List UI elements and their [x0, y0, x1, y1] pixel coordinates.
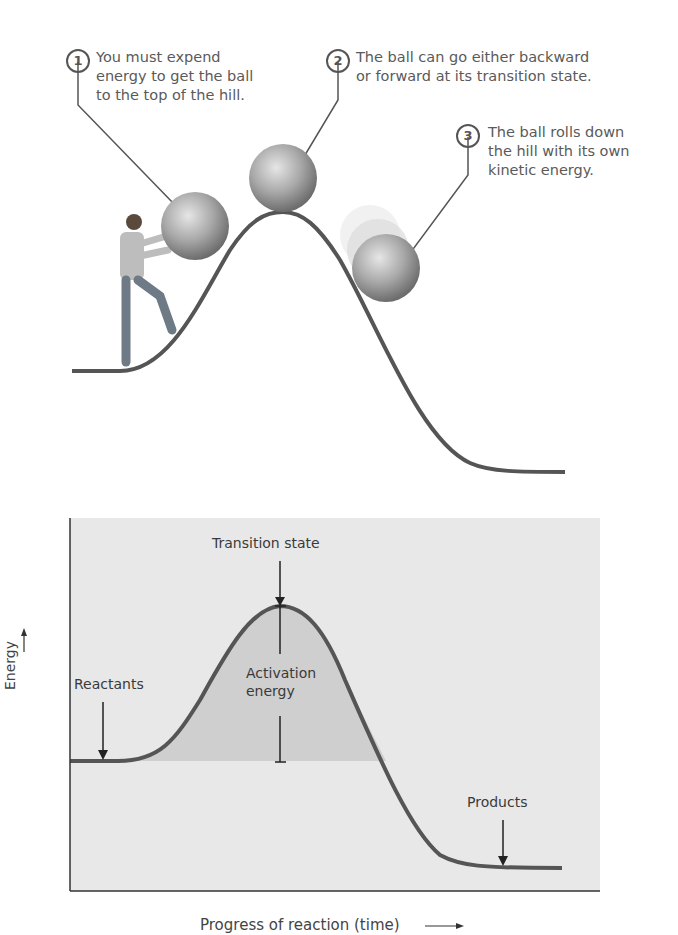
- callout-3-line2: the hill with its own: [488, 142, 629, 161]
- callout-3-line3: kinetic energy.: [488, 161, 629, 180]
- y-axis-label: Energy: [2, 641, 18, 690]
- callout-2-line1: The ball can go either backward: [356, 48, 592, 67]
- callout-2-line2: or forward at its transition state.: [356, 67, 592, 86]
- callout-1-line2: energy to get the ball: [96, 67, 253, 86]
- callout-1-text: You must expend energy to get the ball t…: [96, 48, 253, 105]
- ball-2: [249, 144, 317, 212]
- callout-2-text: The ball can go either backward or forwa…: [356, 48, 592, 86]
- callout-3-line1: The ball rolls down: [488, 123, 629, 142]
- callout-3-number: 3: [456, 124, 480, 148]
- hill-curve: [72, 212, 565, 472]
- callout-1-line3: to the top of the hill.: [96, 86, 253, 105]
- callout-1-number: 1: [66, 49, 90, 73]
- activation-line1: Activation: [246, 664, 316, 682]
- products-label: Products: [467, 794, 527, 810]
- callout-2-number: 2: [326, 49, 350, 73]
- x-axis-label: Progress of reaction (time): [200, 916, 400, 934]
- transition-state-label: Transition state: [212, 535, 320, 551]
- ball-1: [161, 192, 229, 260]
- activation-line2: energy: [246, 682, 316, 700]
- ball-3: [352, 234, 420, 302]
- callout-3-text: The ball rolls down the hill with its ow…: [488, 123, 629, 180]
- reactants-label: Reactants: [74, 676, 144, 692]
- activation-energy-label: Activation energy: [246, 664, 316, 700]
- callout-1-line1: You must expend: [96, 48, 253, 67]
